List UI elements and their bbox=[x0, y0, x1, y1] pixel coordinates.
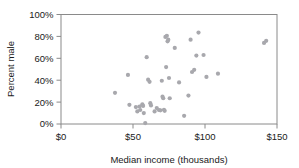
data-point bbox=[149, 103, 153, 107]
data-point bbox=[113, 91, 117, 95]
plot-area-frame bbox=[61, 15, 277, 125]
data-point bbox=[177, 80, 181, 84]
x-tick-label: $100 bbox=[194, 131, 215, 142]
chart-page: $0$50$100$1500%20%40%60%80%100% Median i… bbox=[0, 0, 299, 168]
data-point bbox=[194, 53, 198, 57]
x-tick-label: $150 bbox=[266, 131, 287, 142]
y-tick-label: 80% bbox=[34, 31, 54, 42]
y-tick-label: 20% bbox=[34, 97, 54, 108]
x-axis-title: Median income (thousands) bbox=[110, 154, 227, 165]
data-point bbox=[264, 39, 268, 43]
y-tick-label: 100% bbox=[29, 9, 54, 20]
data-point bbox=[182, 114, 186, 118]
data-point bbox=[138, 108, 142, 112]
data-point bbox=[160, 79, 164, 83]
scatter-chart: $0$50$100$1500%20%40%60%80%100% Median i… bbox=[0, 0, 299, 168]
y-tick-label: 60% bbox=[34, 53, 54, 64]
y-axis-title: Percent male bbox=[5, 41, 16, 97]
data-point bbox=[216, 72, 220, 76]
data-point bbox=[196, 30, 200, 34]
data-point bbox=[134, 105, 138, 109]
y-tick-label: 40% bbox=[34, 75, 54, 86]
data-point bbox=[204, 75, 208, 79]
data-point bbox=[141, 104, 145, 108]
y-tick-label: 0% bbox=[40, 118, 54, 129]
data-point bbox=[161, 96, 165, 100]
data-point bbox=[167, 76, 171, 80]
x-tick-label: $50 bbox=[125, 131, 141, 142]
data-point bbox=[142, 111, 146, 115]
data-point bbox=[158, 108, 162, 112]
x-tick-label: $0 bbox=[56, 131, 67, 142]
data-point bbox=[164, 65, 168, 69]
plot-frame bbox=[61, 15, 277, 125]
data-point bbox=[173, 46, 177, 50]
data-point bbox=[145, 55, 149, 59]
data-point bbox=[165, 34, 169, 38]
data-point bbox=[126, 73, 130, 77]
data-point bbox=[189, 38, 193, 42]
data-point bbox=[166, 38, 170, 42]
data-point bbox=[127, 103, 131, 107]
data-point bbox=[147, 80, 151, 84]
data-point bbox=[201, 53, 205, 57]
data-point bbox=[163, 109, 167, 113]
data-point bbox=[168, 96, 172, 100]
data-point bbox=[143, 121, 147, 125]
data-point bbox=[186, 93, 190, 97]
data-point bbox=[192, 68, 196, 72]
